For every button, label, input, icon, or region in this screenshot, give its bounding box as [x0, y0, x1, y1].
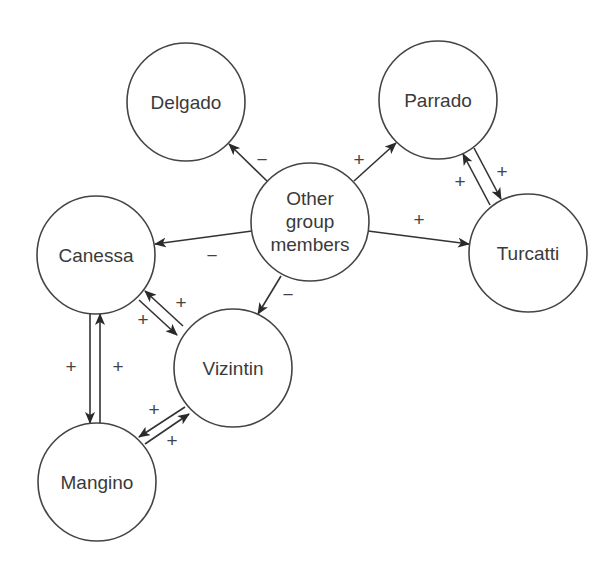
node-vizintin: Vizintin — [174, 309, 292, 427]
edge-turcatti-to-parrado — [463, 154, 490, 205]
node-label: Parrado — [404, 90, 472, 111]
sign-canessa-vizintin: + — [137, 309, 148, 330]
node-label: Turcatti — [497, 243, 560, 264]
node-label: Mangino — [61, 472, 134, 493]
node-canessa: Canessa — [37, 196, 155, 314]
edge-other-to-canessa — [155, 231, 252, 244]
edge-other-to-turcatti — [368, 231, 469, 244]
sign-canessa-mangino: + — [65, 356, 76, 377]
sign-vizintin-mangino: + — [148, 399, 159, 420]
sign-mangino-vizintin: + — [166, 430, 177, 451]
node-other-group-members: Other group members — [251, 163, 369, 281]
node-turcatti: Turcatti — [469, 194, 587, 312]
node-label: Delgado — [151, 92, 222, 113]
sign-other-delgado: − — [256, 149, 267, 170]
edge-other-to-vizintin — [258, 276, 281, 314]
node-delgado: Delgado — [127, 43, 245, 161]
sign-other-canessa: − — [206, 245, 217, 266]
sign-mangino-canessa: + — [112, 356, 123, 377]
sign-other-turcatti: + — [413, 209, 424, 230]
sign-vizintin-canessa: + — [175, 292, 186, 313]
node-parrado: Parrado — [379, 41, 497, 159]
node-label-line-1: Other — [286, 188, 334, 209]
relationship-diagram: − + − + − + + + + + + + + Delgado Parrad… — [0, 0, 609, 567]
sign-parrado-turcatti: + — [496, 161, 507, 182]
node-label: Canessa — [59, 245, 134, 266]
node-label-line-2: group — [286, 211, 335, 232]
sign-turcatti-parrado: + — [454, 171, 465, 192]
node-mangino: Mangino — [38, 423, 156, 541]
sign-other-parrado: + — [353, 149, 364, 170]
node-label: Vizintin — [203, 358, 264, 379]
sign-other-vizintin: − — [282, 284, 293, 305]
node-label-line-3: members — [270, 234, 349, 255]
